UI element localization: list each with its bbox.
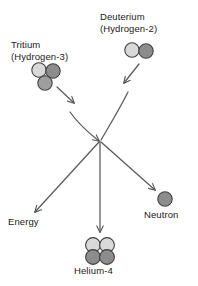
deuterium-alias: (Hydrogen-2) [100, 23, 157, 35]
deuterium-name: Deuterium [100, 11, 145, 22]
deuterium-neutron-1 [139, 44, 153, 58]
label-tritium: Tritium (Hydrogen-3) [11, 39, 68, 62]
label-neutron: Neutron [144, 209, 179, 221]
tritium-nucleus [32, 63, 60, 90]
tritium-proton-1 [32, 63, 46, 77]
label-energy: Energy [8, 216, 39, 228]
arrow-deuterium-to-core [101, 64, 139, 140]
helium-nucleus [86, 238, 115, 265]
helium-neutron-1 [86, 250, 101, 265]
arrow-tritium-to-core [57, 87, 99, 141]
label-deuterium: Deuterium (Hydrogen-2) [100, 11, 157, 34]
neutron-circle [158, 192, 172, 206]
tritium-alias: (Hydrogen-3) [11, 51, 68, 63]
fusion-diagram: Tritium (Hydrogen-3) Deuterium (Hydrogen… [0, 0, 198, 286]
arrow-core-to-neutron [101, 142, 155, 190]
tritium-name: Tritium [11, 39, 40, 50]
label-helium: Helium-4 [74, 265, 113, 277]
free-neutron-particle [158, 192, 172, 206]
deuterium-proton-1 [125, 43, 139, 57]
helium-neutron-2 [100, 250, 115, 265]
deuterium-nucleus [125, 43, 153, 58]
arrow-core-to-energy [35, 142, 99, 212]
tritium-neutron-2 [38, 76, 52, 90]
